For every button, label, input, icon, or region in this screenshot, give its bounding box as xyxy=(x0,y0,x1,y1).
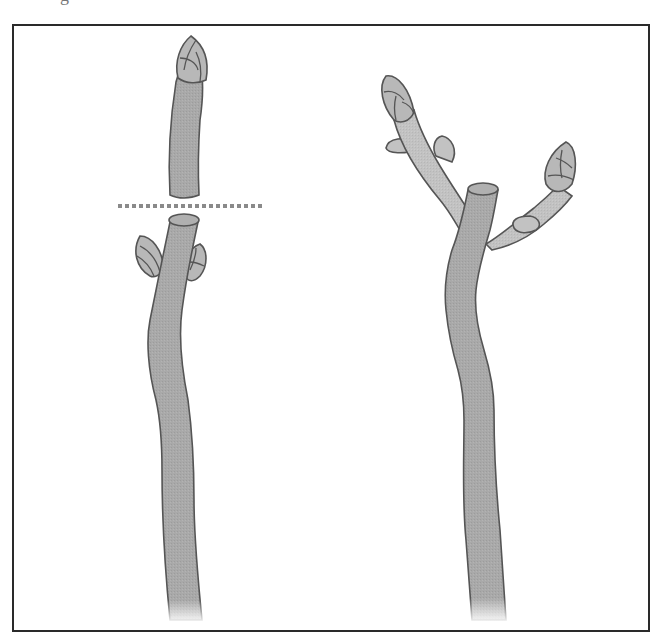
main-stem-stub xyxy=(445,183,514,624)
terminal-bud-icon xyxy=(177,36,207,83)
pruning-illustration xyxy=(0,0,662,634)
panel-before xyxy=(118,36,264,624)
right-new-branch xyxy=(486,142,575,250)
removed-shoot-tip xyxy=(169,36,207,198)
left-branch-bud-icon xyxy=(382,76,414,122)
right-branch-bud-icon xyxy=(545,142,575,192)
left-new-branch xyxy=(382,76,474,232)
panel-after xyxy=(382,76,576,624)
stem-with-lateral-buds xyxy=(136,214,210,624)
